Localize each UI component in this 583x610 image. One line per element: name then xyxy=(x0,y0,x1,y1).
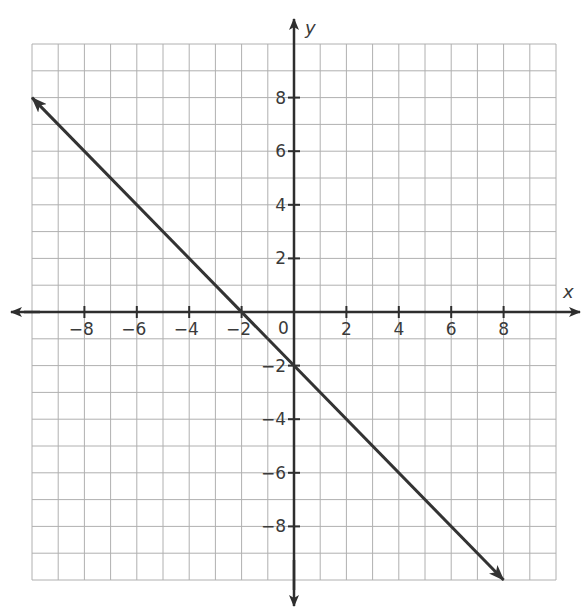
line-segment-end xyxy=(268,339,504,580)
line-segment-start xyxy=(32,98,268,339)
axes xyxy=(11,19,580,606)
y-tick-label: −2 xyxy=(261,356,286,376)
y-tick-label: 2 xyxy=(275,248,286,268)
x-tick-label: 8 xyxy=(498,319,509,339)
coordinate-plane: −8−6−4−224688642−2−4−6−8 x y 0 xyxy=(0,0,583,610)
x-tick-label: −2 xyxy=(226,319,251,339)
y-axis-label: y xyxy=(304,17,316,38)
y-tick-label: −4 xyxy=(261,409,286,429)
x-tick-label: 6 xyxy=(446,319,457,339)
y-tick-label: 4 xyxy=(275,195,286,215)
origin-label: 0 xyxy=(278,318,289,338)
y-tick-label: −8 xyxy=(261,516,286,536)
x-tick-label: 4 xyxy=(393,319,404,339)
x-axis-label: x xyxy=(562,281,574,302)
x-tick-label: −4 xyxy=(174,319,199,339)
x-tick-label: 2 xyxy=(341,319,352,339)
y-tick-label: −6 xyxy=(261,463,286,483)
y-tick-label: 6 xyxy=(275,141,286,161)
x-tick-label: −8 xyxy=(69,319,94,339)
x-tick-label: −6 xyxy=(121,319,146,339)
y-tick-label: 8 xyxy=(275,88,286,108)
